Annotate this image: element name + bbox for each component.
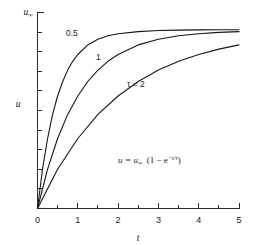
curve-label-0-5: 0.5 (66, 28, 78, 38)
x-tick-label: 5 (236, 215, 241, 225)
curve-label-tau-2: τ = 2 (127, 79, 145, 89)
equation-lhs: u (118, 155, 123, 165)
equation-close-paren: ) (178, 155, 181, 165)
y-axis-title: u (16, 99, 21, 109)
x-tick-label: 0 (35, 215, 40, 225)
x-axis-title: t (137, 233, 140, 243)
equation-equals: = (126, 155, 131, 165)
x-tick-label: 4 (196, 215, 201, 225)
curve-label-1: 1 (96, 52, 101, 62)
y-top-label-infinity-subscript: ∞ (28, 11, 33, 18)
exponential-rise-chart: 0 1 2 3 4 5 u∞ u t 0.5 1 τ = 2 u=u∞(1 − … (0, 0, 253, 245)
chart-figure: 0 1 2 3 4 5 u∞ u t 0.5 1 τ = 2 u=u∞(1 − … (0, 0, 253, 245)
equation-amplitude-subscript: ∞ (138, 159, 143, 166)
x-tick-label: 3 (156, 215, 161, 225)
x-tick-label: 2 (116, 215, 121, 225)
equation-open-paren: (1 − e (147, 155, 168, 165)
x-tick-label: 1 (75, 215, 80, 225)
